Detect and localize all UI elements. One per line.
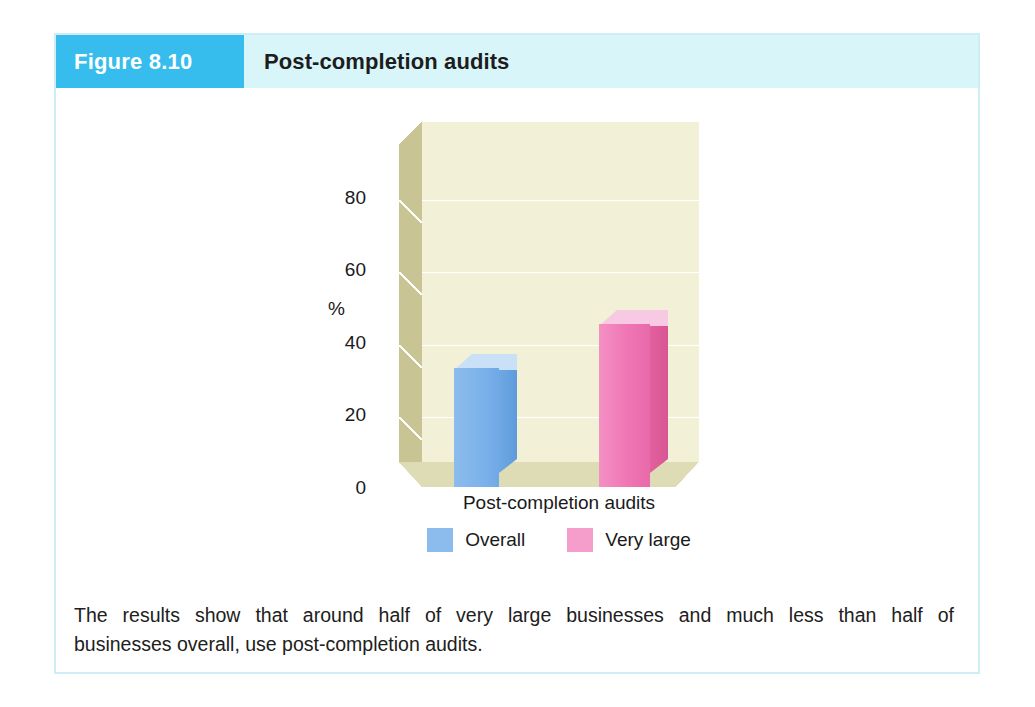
gridline-side-60 <box>399 272 422 295</box>
bar-overall-side <box>499 354 517 473</box>
figure-header: Figure 8.10 Post-completion audits <box>56 35 978 88</box>
figure-number-tab: Figure 8.10 <box>56 35 244 88</box>
y-tick-20: 20 <box>320 404 366 426</box>
gridline-side-40 <box>399 345 422 368</box>
chart-legend: Overall Very large <box>399 528 719 552</box>
bar-overall[interactable] <box>454 354 499 487</box>
figure-caption: The results show that around half of ver… <box>74 601 954 659</box>
y-axis-title: % <box>328 298 345 320</box>
gridline-side-80 <box>399 200 422 223</box>
figure-caption-line-1: The results show that around half of ver… <box>74 601 954 630</box>
bar-very-large-side <box>650 310 668 473</box>
legend-item-overall[interactable]: Overall <box>427 528 525 552</box>
y-tick-0: 0 <box>320 477 366 499</box>
bar-very-large[interactable] <box>599 310 650 487</box>
plot-floor-right-corner <box>676 462 699 487</box>
gridline-80 <box>422 200 699 201</box>
legend-item-very-large[interactable]: Very large <box>567 528 691 552</box>
bar-very-large-front <box>599 324 650 487</box>
y-tick-40: 40 <box>320 332 366 354</box>
figure-box: Figure 8.10 Post-completion audits 80 60… <box>54 33 980 674</box>
legend-label-very-large: Very large <box>605 529 691 551</box>
legend-swatch-overall <box>427 528 453 552</box>
figure-title: Post-completion audits <box>244 49 509 75</box>
legend-label-overall: Overall <box>465 529 525 551</box>
x-axis-label: Post-completion audits <box>399 492 719 514</box>
bar-overall-front <box>454 368 499 487</box>
plot-floor-left-corner <box>399 462 422 487</box>
figure-number-label: Figure 8.10 <box>74 49 192 75</box>
gridline-side-20 <box>399 417 422 440</box>
figure-caption-line-2: businesses overall, use post-completion … <box>74 630 954 659</box>
plot-scene <box>399 122 699 487</box>
chart-area: 80 60 40 20 0 % <box>56 88 978 593</box>
gridline-60 <box>422 272 699 273</box>
legend-swatch-very-large <box>567 528 593 552</box>
plot-side-wall-cap <box>399 122 422 145</box>
y-tick-60: 60 <box>320 259 366 281</box>
y-tick-80: 80 <box>320 187 366 209</box>
